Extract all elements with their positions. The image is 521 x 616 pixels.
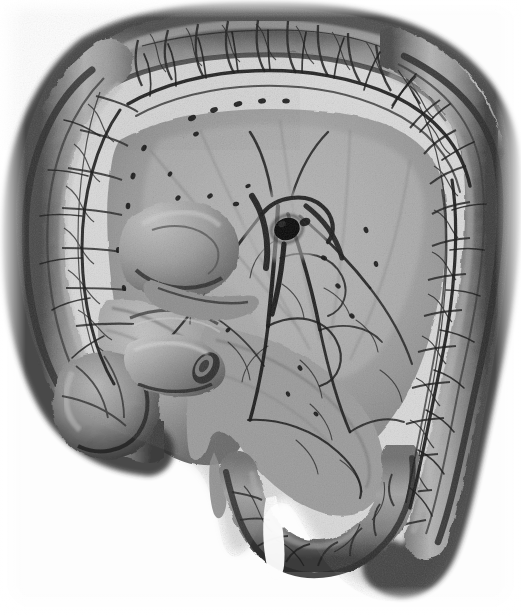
colon-engraving — [0, 0, 521, 616]
anatomical-figure: Large intestine (colon) with mesocolon a… — [0, 0, 521, 616]
